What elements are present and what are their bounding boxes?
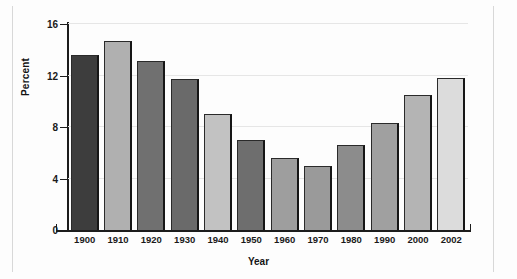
bar-slot	[171, 24, 199, 230]
x-axis-tick-labels: 1900191019201930194019501960197019801990…	[68, 234, 468, 250]
x-axis-tick-label: 2002	[435, 234, 468, 245]
bar[interactable]	[237, 140, 265, 230]
frame-rule-right	[493, 6, 494, 272]
plot-area	[68, 24, 468, 230]
x-axis-line	[56, 230, 471, 232]
x-axis-tick-label: 1980	[335, 234, 368, 245]
y-axis-tick-labels: 0481216	[0, 0, 58, 279]
bar[interactable]	[204, 114, 232, 230]
y-axis-tick-label: 16	[12, 19, 58, 30]
x-axis-tick-label: 1930	[168, 234, 201, 245]
y-axis-tick-label: 0	[12, 225, 58, 236]
bar-slot	[304, 24, 332, 230]
bar-slot	[437, 24, 465, 230]
y-axis-title: Percent	[20, 58, 31, 96]
bar-slot	[371, 24, 399, 230]
x-axis-tick-label: 2000	[401, 234, 434, 245]
bar-slot	[204, 24, 232, 230]
x-axis-cap-start	[56, 224, 57, 231]
bar[interactable]	[71, 55, 99, 230]
bar-slot	[404, 24, 432, 230]
chart-figure: 0481216 19001910192019301940195019601970…	[0, 0, 517, 279]
x-axis-tick-label: 1920	[135, 234, 168, 245]
x-axis-tick-label: 1940	[201, 234, 234, 245]
bar[interactable]	[337, 145, 365, 230]
bar-slot	[337, 24, 365, 230]
bar[interactable]	[404, 95, 432, 230]
bar[interactable]	[371, 123, 399, 230]
x-axis-tick-label: 1990	[368, 234, 401, 245]
bar-slot	[137, 24, 165, 230]
bar[interactable]	[137, 61, 165, 230]
bars-layer	[68, 24, 468, 230]
x-axis-title: Year	[0, 256, 517, 267]
x-axis-tick-label: 1970	[301, 234, 334, 245]
y-axis-tick-label: 8	[12, 122, 58, 133]
bar[interactable]	[104, 41, 132, 230]
bar-slot	[104, 24, 132, 230]
y-axis-tick-label: 12	[12, 70, 58, 81]
y-axis-tick-label: 4	[12, 173, 58, 184]
x-axis-tick-label: 1950	[235, 234, 268, 245]
x-axis-tick-label: 1960	[268, 234, 301, 245]
bar[interactable]	[171, 79, 199, 230]
bar[interactable]	[271, 158, 299, 230]
bar[interactable]	[437, 78, 465, 230]
bar[interactable]	[304, 166, 332, 230]
x-axis-tick-label: 1900	[68, 234, 101, 245]
bar-slot	[71, 24, 99, 230]
x-axis-cap-end	[470, 224, 471, 231]
bar-slot	[271, 24, 299, 230]
x-axis-tick-label: 1910	[101, 234, 134, 245]
bar-slot	[237, 24, 265, 230]
